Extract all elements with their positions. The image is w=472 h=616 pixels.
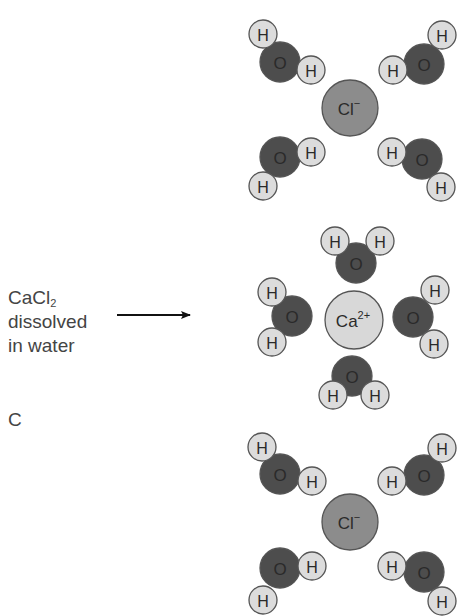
hydrogen-label: H [306, 474, 318, 491]
hydrogen-label: H [387, 63, 399, 80]
hydrogen-label: H [386, 145, 398, 162]
water-molecule: OHH [258, 278, 312, 356]
hydrogen-label: H [436, 28, 448, 45]
oxygen-label: O [273, 54, 286, 73]
water-molecule: OHH [248, 433, 326, 495]
oxygen-label: O [406, 309, 419, 328]
water-molecule: OHH [249, 548, 326, 614]
hydrogen-label: H [306, 559, 318, 576]
oxygen-label: O [417, 56, 430, 75]
hydrogen-label: H [257, 593, 269, 610]
cl-bottom-ion: Cl− [322, 494, 378, 550]
oxygen-label: O [417, 467, 430, 486]
oxygen-label: O [349, 255, 362, 274]
water-molecule: OHH [319, 356, 389, 409]
water-molecule: OHH [379, 21, 456, 84]
oxygen-label: O [417, 564, 430, 583]
caption-in-water: in water [8, 334, 75, 358]
water-molecule: OHH [393, 276, 449, 358]
hydrogen-label: H [327, 388, 339, 405]
hydrogen-label: H [257, 27, 269, 44]
water-molecule: OHH [249, 20, 325, 84]
oxygen-label: O [273, 466, 286, 485]
hydrogen-label: H [386, 474, 398, 491]
hydrogen-label: H [436, 441, 448, 458]
hydrogen-label: H [329, 234, 341, 251]
oxygen-label: O [415, 151, 428, 170]
hydrogen-label: H [436, 594, 448, 611]
oxygen-label: O [273, 149, 286, 168]
water-molecule: OHH [378, 552, 456, 615]
hydrogen-label: H [428, 337, 440, 354]
hydrogen-label: H [266, 335, 278, 352]
water-molecule: OHH [249, 137, 325, 200]
oxygen-label: O [285, 308, 298, 327]
panel-letter: C [8, 408, 22, 432]
hydration-shells: OHHOHHOHHOHHOHHOHHOHHOHHOHHOHHOHHOHHCl−C… [248, 20, 456, 615]
hydrogen-label: H [305, 63, 317, 80]
hydrogen-label: H [429, 283, 441, 300]
water-molecule: OHH [378, 434, 456, 495]
water-molecule: OHH [321, 227, 394, 283]
diagram-canvas: OHHOHHOHHOHHOHHOHHOHHOHHOHHOHHOHHOHHCl−C… [0, 0, 472, 616]
hydrogen-label: H [305, 145, 317, 162]
hydrogen-label: H [256, 440, 268, 457]
hydrogen-label: H [369, 388, 381, 405]
water-molecule: OHH [378, 138, 455, 201]
hydrogen-label: H [374, 234, 386, 251]
hydrogen-label: H [435, 180, 447, 197]
hydrogen-label: H [257, 179, 269, 196]
ca-ion: Ca2+ [325, 291, 383, 349]
hydrogen-label: H [266, 285, 278, 302]
hydrogen-label: H [386, 559, 398, 576]
oxygen-label: O [273, 560, 286, 579]
cl-top-ion: Cl− [322, 80, 378, 136]
caption-dissolved: dissolved [8, 310, 87, 334]
oxygen-label: O [345, 368, 358, 387]
